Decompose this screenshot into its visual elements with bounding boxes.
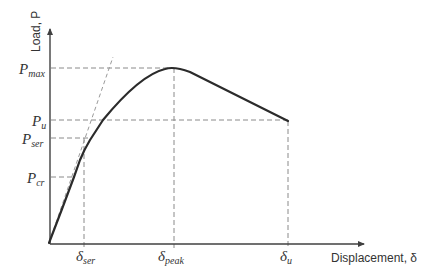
load-displacement-curve — [49, 68, 288, 243]
label-p-max: Pmax — [18, 61, 45, 79]
x-tick-labels: δser δpeak δu — [76, 248, 292, 266]
label-delta-peak: δpeak — [158, 248, 184, 266]
x-axis-label: Displacement, δ — [331, 251, 417, 265]
y-tick-labels: Pmax Pu Pser Pcr — [18, 61, 46, 188]
axes — [50, 29, 364, 244]
label-p-cr: Pcr — [26, 170, 45, 188]
label-delta-u: δu — [280, 248, 292, 266]
label-p-ser: Pser — [21, 131, 44, 149]
label-delta-ser: δser — [76, 248, 95, 266]
load-displacement-diagram: Load, P Displacement, δ Pmax Pu Pser Pcr… — [0, 0, 443, 278]
y-axis-label: Load, P — [29, 11, 43, 52]
label-p-u: Pu — [31, 113, 46, 131]
guide-lines — [51, 68, 288, 248]
